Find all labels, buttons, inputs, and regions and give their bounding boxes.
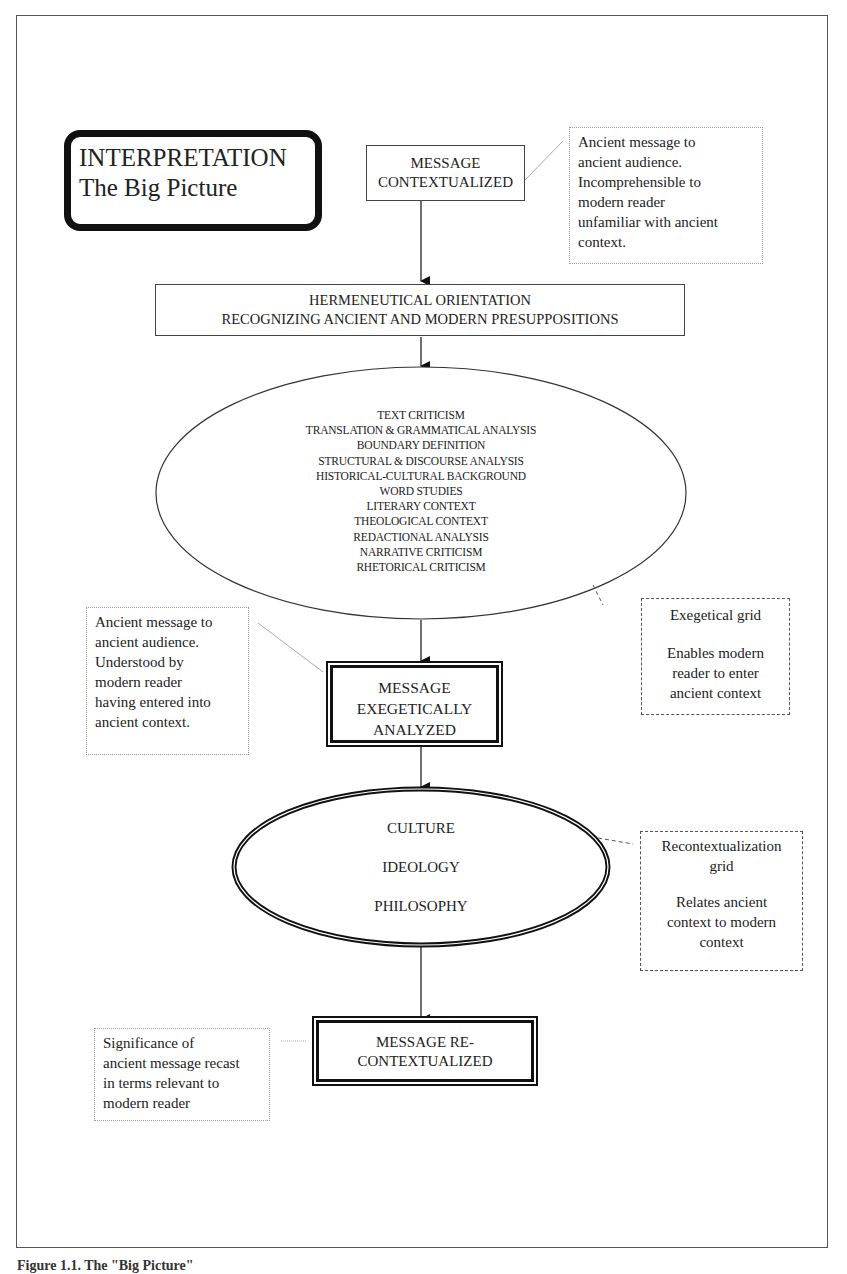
recontextualization-grid-list: CULTURE IDEOLOGY PHILOSOPHY — [321, 809, 521, 926]
note-line: context to modern — [647, 912, 796, 932]
note-line: ancient context. — [95, 712, 240, 732]
node-label-line: HERMENEUTICAL ORIENTATION — [156, 291, 684, 310]
message-contextualized-node: MESSAGE CONTEXTUALIZED — [366, 145, 525, 201]
note-line: Understood by — [95, 652, 240, 672]
recontextualized-note: Significance of ancient message recast i… — [94, 1028, 270, 1121]
note-line: reader to enter — [648, 663, 783, 683]
note-line: Ancient message to — [95, 612, 240, 632]
leader-exegetical-note — [593, 585, 603, 605]
leader-recontext-note — [598, 838, 633, 844]
note-line: in terms relevant to — [103, 1073, 261, 1093]
note-line: modern reader — [103, 1093, 261, 1113]
note-line: modern reader — [578, 192, 754, 212]
message-recontextualized-node: MESSAGE RE- CONTEXTUALIZED — [312, 1016, 538, 1086]
diagram-title-box: INTERPRETATION The Big Picture — [64, 130, 322, 231]
grid-item: STRUCTURAL & DISCOURSE ANALYSIS — [221, 454, 621, 469]
grid-item: RHETORICAL CRITICISM — [221, 560, 621, 575]
note-line: modern reader — [95, 672, 240, 692]
grid-item: PHILOSOPHY — [321, 887, 521, 926]
grid-item: HISTORICAL-CULTURAL BACKGROUND — [221, 469, 621, 484]
note-line: Relates ancient — [647, 892, 796, 912]
grid-item: REDACTIONAL ANALYSIS — [221, 530, 621, 545]
leader-contextualized-note — [525, 141, 563, 180]
grid-item: BOUNDARY DEFINITION — [221, 438, 621, 453]
note-line: context. — [578, 232, 754, 252]
note-line: unfamiliar with ancient — [578, 212, 754, 232]
figure-caption: Figure 1.1. The "Big Picture" — [17, 1258, 194, 1274]
note-line: ancient audience. — [578, 152, 754, 172]
note-title: Recontextualization — [647, 836, 796, 856]
note-line: Incomprehensible to — [578, 172, 754, 192]
node-label-line: CONTEXTUALIZED — [367, 173, 524, 192]
grid-item: CULTURE — [321, 809, 521, 848]
note-line: ancient context — [648, 683, 783, 703]
note-line: context — [647, 932, 796, 952]
note-title: grid — [647, 856, 796, 876]
grid-item: LITERARY CONTEXT — [221, 499, 621, 514]
node-label-line: MESSAGE — [367, 154, 524, 173]
note-line: ancient audience. — [95, 632, 240, 652]
node-label-line: CONTEXTUALIZED — [318, 1052, 532, 1071]
grid-item: IDEOLOGY — [321, 848, 521, 887]
node-label-line: MESSAGE RE- — [318, 1033, 532, 1052]
grid-item: TEXT CRITICISM — [221, 408, 621, 423]
node-label-line: MESSAGE — [332, 677, 497, 698]
note-line: ancient message recast — [103, 1053, 261, 1073]
leader-analyzed-note — [258, 623, 323, 672]
node-label-line: RECOGNIZING ANCIENT AND MODERN PRESUPPOS… — [156, 310, 684, 329]
note-line: having entered into — [95, 692, 240, 712]
exegetical-grid-note: Exegetical grid Enables modern reader to… — [641, 598, 790, 715]
note-line: Ancient message to — [578, 132, 754, 152]
grid-item: TRANSLATION & GRAMMATICAL ANALYSIS — [221, 423, 621, 438]
message-exegetically-analyzed-node: MESSAGE EXEGETICALLY ANALYZED — [326, 661, 503, 747]
exegetical-grid-list: TEXT CRITICISM TRANSLATION & GRAMMATICAL… — [221, 408, 621, 575]
note-title: Exegetical grid — [648, 605, 783, 625]
title-line-1: INTERPRETATION — [79, 143, 315, 173]
grid-item: WORD STUDIES — [221, 484, 621, 499]
grid-item: NARRATIVE CRITICISM — [221, 545, 621, 560]
grid-item: THEOLOGICAL CONTEXT — [221, 514, 621, 529]
node-label-line: ANALYZED — [332, 719, 497, 740]
analyzed-note: Ancient message to ancient audience. Und… — [86, 607, 249, 755]
note-line: Enables modern — [648, 643, 783, 663]
note-line: Significance of — [103, 1033, 261, 1053]
title-line-2: The Big Picture — [79, 173, 315, 203]
contextualized-note: Ancient message to ancient audience. Inc… — [569, 127, 763, 264]
hermeneutical-orientation-node: HERMENEUTICAL ORIENTATION RECOGNIZING AN… — [155, 284, 685, 336]
recontextualization-grid-note: Recontextualization grid Relates ancient… — [640, 831, 803, 971]
node-label-line: EXEGETICALLY — [332, 698, 497, 719]
